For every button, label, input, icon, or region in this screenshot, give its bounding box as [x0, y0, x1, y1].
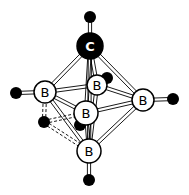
hydrogen-atom — [84, 11, 96, 23]
hydrogen-atom — [10, 87, 22, 99]
atom-label: C — [85, 39, 95, 54]
boron-atom: B — [74, 101, 98, 125]
hydrogen-atom — [38, 116, 50, 128]
boron-atom: B — [77, 139, 101, 163]
carborane-structure: CBBBBB — [0, 0, 189, 195]
hydrogen-atom — [167, 93, 179, 105]
boron-atom: B — [132, 89, 154, 111]
atom-label: B — [93, 78, 102, 93]
boron-atom: B — [87, 75, 107, 95]
carbon-atom: C — [77, 33, 103, 59]
atom-label: B — [41, 85, 50, 100]
boron-atom: B — [34, 81, 56, 103]
atom-label: B — [82, 106, 91, 121]
molecule-diagram: CBBBBB — [0, 0, 189, 195]
atom-label: B — [139, 93, 148, 108]
hydrogen-atom — [83, 174, 95, 186]
atom-label: B — [85, 144, 94, 159]
